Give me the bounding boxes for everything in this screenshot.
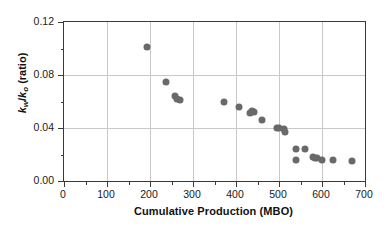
x-axis-title: Cumulative Production (MBO) <box>63 205 364 217</box>
data-point <box>162 78 169 85</box>
x-tick-label: 0 <box>60 188 66 200</box>
gridline-horizontal <box>64 75 365 76</box>
y-tick-label: 0.12 <box>34 15 54 27</box>
data-point <box>143 44 150 51</box>
x-tick-major <box>322 181 323 187</box>
x-tick-label: 600 <box>312 188 330 200</box>
x-tick-major <box>150 181 151 187</box>
x-tick-minor <box>172 181 173 185</box>
chart-figure: 0.000.040.080.12 0100200300400500600700 … <box>0 0 385 239</box>
y-tick-label: 0.08 <box>34 68 54 80</box>
data-point <box>349 158 356 165</box>
y-tick-label: 0.04 <box>34 121 54 133</box>
x-tick-minor <box>258 181 259 185</box>
x-tick-major <box>107 181 108 187</box>
x-tick-label: 700 <box>355 188 373 200</box>
y-tick-major <box>58 75 64 76</box>
data-point <box>282 128 289 135</box>
y-tick-major <box>58 22 64 23</box>
gridline-vertical <box>193 22 194 181</box>
x-tick-major <box>236 181 237 187</box>
y-tick-minor <box>61 102 65 103</box>
y-tick-label: 0.00 <box>34 174 54 186</box>
data-point <box>220 98 227 105</box>
data-point <box>301 146 308 153</box>
data-point <box>235 103 242 110</box>
y-axis-title-k1: k <box>16 107 28 113</box>
gridline-vertical <box>107 22 108 181</box>
gridline-vertical <box>150 22 151 181</box>
y-tick-major <box>58 128 64 129</box>
data-point <box>292 146 299 153</box>
x-tick-label: 100 <box>97 188 115 200</box>
data-point <box>329 156 336 163</box>
x-axis-tick-labels: 0100200300400500600700 <box>63 188 364 204</box>
x-tick-minor <box>301 181 302 185</box>
y-tick-minor <box>61 49 65 50</box>
x-tick-minor <box>86 181 87 185</box>
x-tick-minor <box>215 181 216 185</box>
x-tick-label: 500 <box>269 188 287 200</box>
x-tick-minor <box>344 181 345 185</box>
data-point <box>177 97 184 104</box>
x-tick-label: 200 <box>140 188 158 200</box>
data-point <box>319 156 326 163</box>
y-axis-title-sub2: o <box>21 87 30 92</box>
x-tick-minor <box>129 181 130 185</box>
plot-area <box>63 21 366 182</box>
y-axis-title-unit: (ratio) <box>16 53 28 87</box>
y-axis-title: kw/ko (ratio) <box>16 3 28 163</box>
x-tick-major <box>365 181 366 187</box>
x-tick-label: 400 <box>226 188 244 200</box>
y-tick-minor <box>61 155 65 156</box>
gridline-vertical <box>236 22 237 181</box>
gridline-vertical <box>279 22 280 181</box>
x-tick-major <box>193 181 194 187</box>
y-axis-title-k2: k <box>16 92 28 98</box>
x-tick-major <box>279 181 280 187</box>
x-tick-label: 300 <box>183 188 201 200</box>
data-point <box>293 156 300 163</box>
data-point <box>259 117 266 124</box>
x-tick-major <box>64 181 65 187</box>
y-axis-title-sub1: w <box>21 101 30 107</box>
data-point <box>250 109 257 116</box>
gridline-horizontal <box>64 128 365 129</box>
